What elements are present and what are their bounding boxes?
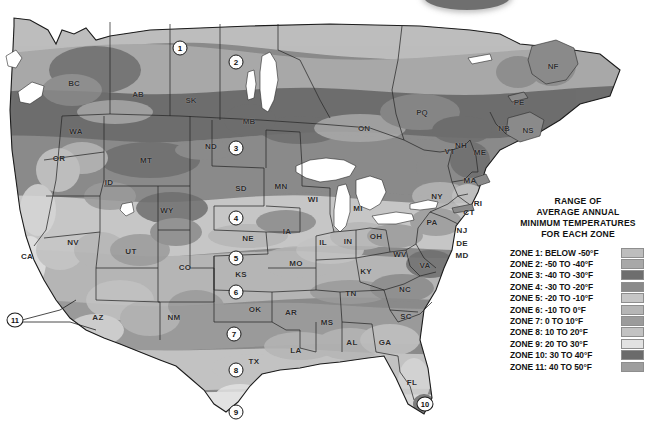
legend-title-line-2: AVERAGE ANNUAL: [505, 207, 651, 218]
province-label-ab: AB: [132, 90, 144, 99]
legend-row[interactable]: ZONE 7: 0 TO 10°F: [505, 315, 651, 326]
province-label-ns: NS: [522, 126, 533, 135]
zone-marker-9[interactable]: 9: [229, 405, 244, 420]
legend-row-label: ZONE 9: 20 TO 30°F: [510, 339, 588, 349]
province-label-bc: BC: [68, 79, 80, 88]
zone-marker-5[interactable]: 5: [229, 251, 244, 266]
legend-color-swatch: [621, 270, 644, 280]
legend-color-swatch: [621, 327, 644, 337]
legend-row-label: ZONE 8: 10 TO 20°F: [510, 327, 588, 337]
province-label-nf: NF: [548, 62, 559, 71]
zone-marker-1[interactable]: 1: [173, 41, 188, 56]
zone-marker-8[interactable]: 8: [229, 363, 244, 378]
legend-row[interactable]: ZONE 6: -10 TO 0°F: [505, 304, 651, 315]
legend-row[interactable]: ZONE 2: -50 TO -40°F: [505, 258, 651, 269]
legend-panel: RANGE OF AVERAGE ANNUAL MINIMUM TEMPERAT…: [505, 192, 651, 384]
legend-color-swatch: [621, 316, 644, 326]
map-canvas[interactable]: 1234567891011 WAORIDMTWYNDSDNEKSOKTXNVUT…: [0, 0, 505, 424]
legend-row-label: ZONE 1: BELOW -50°F: [510, 248, 598, 258]
legend-row[interactable]: ZONE 5: -20 TO -10°F: [505, 293, 651, 304]
legend-color-swatch: [621, 282, 644, 292]
lake-manitoba: [246, 70, 256, 100]
legend-row[interactable]: ZONE 1: BELOW -50°F: [505, 247, 651, 258]
legend-row-label: ZONE 5: -20 TO -10°F: [510, 293, 593, 303]
legend-row-label: ZONE 3: -40 TO -30°F: [510, 270, 593, 280]
legend-title-line-3: MINIMUM TEMPERATURES: [505, 218, 651, 229]
legend-row-label: ZONE 4: -30 TO -20°F: [510, 282, 593, 292]
province-label-nb: NB: [498, 124, 510, 133]
zone-marker-11[interactable]: 11: [7, 313, 24, 328]
zone-marker-10[interactable]: 10: [417, 397, 434, 412]
legend-row-label: ZONE 2: -50 TO -40°F: [510, 259, 593, 269]
legend-row-label: ZONE 7: 0 TO 10°F: [510, 316, 583, 326]
legend-color-swatch: [621, 248, 644, 258]
zone-marker-2[interactable]: 2: [229, 55, 244, 70]
legend-title: RANGE OF AVERAGE ANNUAL MINIMUM TEMPERAT…: [505, 196, 651, 240]
legend-row[interactable]: ZONE 10: 30 TO 40°F: [505, 350, 651, 361]
province-label-pq: PQ: [416, 108, 428, 117]
legend-color-swatch: [621, 293, 644, 303]
legend-color-swatch: [621, 339, 644, 349]
legend-color-swatch: [621, 362, 644, 372]
legend-color-swatch: [621, 305, 644, 315]
province-label-on: ON: [358, 124, 370, 133]
legend-row[interactable]: ZONE 4: -30 TO -20°F: [505, 281, 651, 292]
legend-row-list: ZONE 1: BELOW -50°FZONE 2: -50 TO -40°FZ…: [505, 247, 651, 372]
zone-marker-7[interactable]: 7: [227, 327, 242, 342]
legend-title-line-1: RANGE OF: [505, 196, 651, 207]
legend-row-label: ZONE 11: 40 TO 50°F: [510, 362, 592, 372]
legend-row[interactable]: ZONE 11: 40 TO 50°F: [505, 361, 651, 372]
legend-row[interactable]: ZONE 9: 20 TO 30°F: [505, 338, 651, 349]
legend-row[interactable]: ZONE 8: 10 TO 20°F: [505, 327, 651, 338]
hardiness-zone-map-page: 1234567891011 WAORIDMTWYNDSDNEKSOKTXNVUT…: [0, 0, 651, 424]
province-label-mb: MB: [243, 117, 255, 126]
legend-row[interactable]: ZONE 3: -40 TO -30°F: [505, 270, 651, 281]
legend-color-swatch: [621, 259, 644, 269]
zone-marker-3[interactable]: 3: [229, 141, 244, 156]
province-label-pe: PE: [514, 98, 525, 107]
legend-row-label: ZONE 10: 30 TO 40°F: [510, 350, 592, 360]
legend-color-swatch: [621, 350, 644, 360]
zone-marker-4[interactable]: 4: [229, 211, 244, 226]
legend-row-label: ZONE 6: -10 TO 0°F: [510, 305, 586, 315]
zone-marker-6[interactable]: 6: [229, 285, 244, 300]
province-label-sk: SK: [185, 96, 196, 105]
legend-title-line-4: FOR EACH ZONE: [505, 229, 651, 240]
